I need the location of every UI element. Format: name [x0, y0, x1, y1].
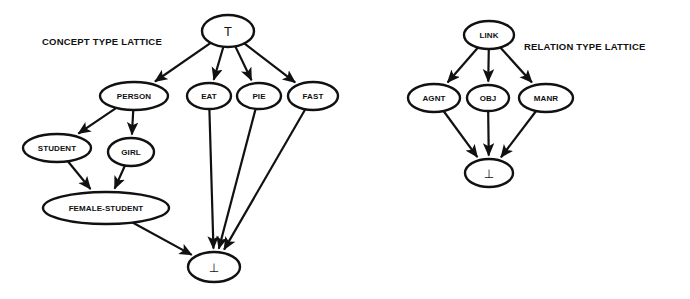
lattice-edge-eat-to-bottom — [209, 109, 213, 249]
node-label-girl: GIRL — [121, 148, 141, 157]
lattice-node-bottom: ⊥ — [188, 252, 240, 282]
node-label-person: PERSON — [117, 92, 152, 101]
lattice-edge-female-student-to-bottom — [133, 223, 192, 255]
lattice-node-female-student: FEMALE-STUDENT — [43, 192, 169, 224]
node-label-eat: EAT — [201, 92, 217, 101]
node-label-fast: FAST — [303, 92, 324, 101]
node-label-agnt: AGNT — [422, 94, 445, 103]
lattice-edge-link-to-manr — [500, 47, 532, 82]
lattice-edge-student-to-female-student — [68, 161, 91, 189]
node-label-link: LINK — [479, 31, 498, 40]
nodes-layer: TPERSONEATPIEFASTSTUDENTGIRLFEMALE-STUDE… — [23, 15, 573, 282]
lattice-node-pie: PIE — [237, 83, 281, 109]
relation-caption: RELATION TYPE LATTICE — [524, 41, 646, 52]
node-label-student: STUDENT — [38, 144, 76, 153]
lattice-edge-person-to-girl — [132, 110, 133, 135]
lattice-node-eat: EAT — [187, 83, 231, 109]
lattice-node-top: T — [202, 15, 254, 47]
node-label-rbottom: ⊥ — [484, 167, 495, 181]
lattice-edge-top-to-eat — [214, 47, 224, 80]
lattice-edge-agnt-to-rbottom — [444, 111, 478, 157]
lattice-node-manr: MANR — [519, 84, 573, 112]
lattice-edge-link-to-agnt — [448, 48, 478, 83]
lattice-edge-link-to-obj — [488, 49, 489, 82]
lattice-node-student: STUDENT — [23, 134, 91, 162]
lattice-node-rbottom: ⊥ — [465, 159, 513, 187]
lattice-canvas: TPERSONEATPIEFASTSTUDENTGIRLFEMALE-STUDE… — [0, 0, 690, 299]
node-label-bottom: ⊥ — [209, 261, 220, 275]
node-label-manr: MANR — [534, 94, 559, 103]
lattice-edge-person-to-student — [78, 108, 116, 134]
lattice-edge-girl-to-female-student — [115, 166, 125, 189]
lattice-node-girl: GIRL — [108, 138, 154, 166]
lattice-node-agnt: AGNT — [408, 84, 460, 112]
lattice-edge-manr-to-rbottom — [501, 111, 536, 157]
lattice-edge-top-to-pie — [235, 46, 251, 80]
captions-layer: CONCEPT TYPE LATTICERELATION TYPE LATTIC… — [42, 36, 646, 52]
concept-caption: CONCEPT TYPE LATTICE — [42, 36, 162, 47]
lattice-node-link: LINK — [464, 21, 514, 49]
type-lattice-diagram: TPERSONEATPIEFASTSTUDENTGIRLFEMALE-STUDE… — [0, 0, 690, 299]
lattice-node-obj: OBJ — [467, 85, 509, 111]
lattice-edge-top-to-person — [155, 43, 211, 82]
lattice-edge-obj-to-rbottom — [488, 111, 489, 156]
node-label-obj: OBJ — [480, 94, 497, 103]
node-label-female-student: FEMALE-STUDENT — [69, 204, 144, 213]
lattice-node-person: PERSON — [100, 82, 168, 110]
node-label-top: T — [223, 25, 232, 39]
lattice-edge-top-to-fast — [244, 43, 295, 82]
node-label-pie: PIE — [252, 92, 266, 101]
lattice-node-fast: FAST — [288, 82, 338, 110]
